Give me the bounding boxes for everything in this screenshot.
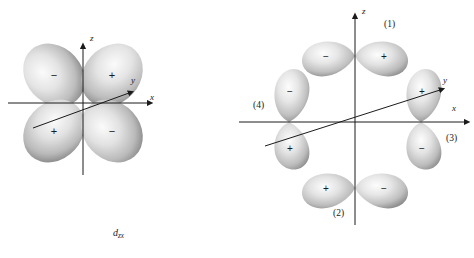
p-sign-bottom-right: − (381, 183, 387, 194)
p-sign-bottom-left: + (323, 183, 329, 194)
d-lobe-sign-lower-right: − (109, 125, 115, 137)
d-lobe-sign-upper-right: + (109, 69, 115, 81)
d-orbital-caption: dzx (0, 227, 237, 240)
p-sign-right-lower: − (419, 143, 425, 154)
atom-label-4: (4) (253, 100, 264, 111)
p-sign-top-right: + (381, 51, 387, 62)
d-orbital-svg: z x y − + + − (0, 0, 237, 258)
atom-label-2: (2) (333, 208, 344, 219)
pi-orbital-svg: − + + − − + + − (237, 0, 474, 258)
atom-label-3: (3) (446, 133, 457, 144)
x-axis-label: x (451, 103, 456, 113)
figure-root: z x y − + + − dzx (0, 0, 474, 258)
d-lobe-sign-lower-left: + (51, 125, 57, 137)
p-sign-top-left: − (323, 51, 329, 62)
d-orbital-caption-subscript: zx (118, 232, 124, 240)
pi-orbital-panel: − + + − − + + − (237, 0, 474, 258)
atom-label-1: (1) (384, 19, 395, 30)
y-axis-label: y (442, 75, 447, 85)
p-orbital-right: + − (406, 69, 441, 170)
d-lobe-sign-upper-left: − (51, 69, 57, 81)
p-sign-left-lower: + (287, 143, 293, 154)
x-axis-label: x (149, 92, 154, 102)
z-axis-label: z (89, 33, 94, 43)
p-sign-left-upper: − (287, 86, 293, 97)
pi-orbital-axes (239, 18, 465, 225)
p-orbital-left: − + (274, 69, 309, 170)
y-axis-label: y (130, 75, 135, 85)
d-orbital-panel: z x y − + + − dzx (0, 0, 237, 258)
z-axis-label: z (361, 6, 366, 16)
